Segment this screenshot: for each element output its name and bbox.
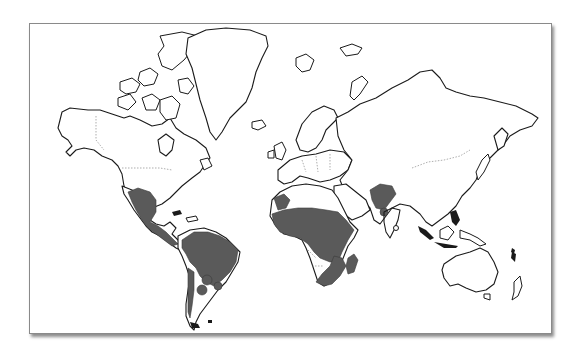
south-america — [178, 228, 240, 330]
greenland — [186, 28, 268, 140]
north-america — [58, 32, 212, 250]
oceania — [442, 248, 522, 300]
world-map — [0, 0, 581, 352]
asia — [334, 70, 538, 254]
